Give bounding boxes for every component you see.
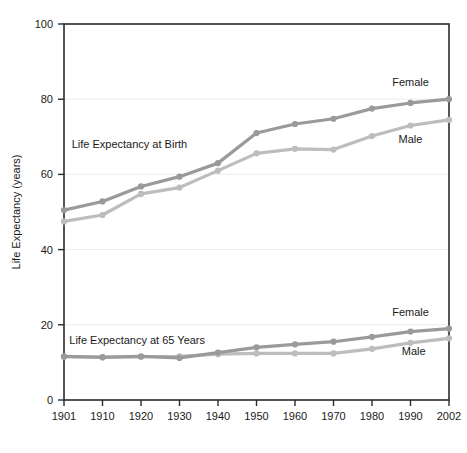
data-point xyxy=(176,355,182,361)
x-tick-label: 1950 xyxy=(244,410,268,422)
x-tick-label: 1920 xyxy=(129,410,153,422)
series-inline-label: Female xyxy=(392,306,429,318)
y-tick-label: 20 xyxy=(41,319,53,331)
y-axis-title: Life Expectancy (years) xyxy=(10,155,22,270)
x-tick-label: 1930 xyxy=(167,410,191,422)
data-point xyxy=(61,207,67,213)
x-tick-label: 1910 xyxy=(90,410,114,422)
data-point xyxy=(215,350,221,356)
x-tick-label: 1970 xyxy=(321,410,345,422)
data-point xyxy=(138,183,144,189)
data-point xyxy=(407,328,413,334)
y-tick-label: 0 xyxy=(47,394,53,406)
data-point xyxy=(407,100,413,106)
data-point xyxy=(292,350,298,356)
data-point xyxy=(292,341,298,347)
series-inline-label: Female xyxy=(392,76,429,88)
data-point xyxy=(330,339,336,345)
series-inline-label: Male xyxy=(399,133,423,145)
data-point xyxy=(292,146,298,152)
data-point xyxy=(446,96,452,102)
data-point xyxy=(176,174,182,180)
data-point xyxy=(61,353,67,359)
data-point xyxy=(446,117,452,123)
data-point xyxy=(330,116,336,122)
x-tick-label: 2002 xyxy=(437,410,461,422)
data-point xyxy=(446,335,452,341)
y-tick-label: 60 xyxy=(41,168,53,180)
data-point xyxy=(61,218,67,224)
data-point xyxy=(176,184,182,190)
data-point xyxy=(253,344,259,350)
chart-background xyxy=(0,0,467,453)
group-annotation-label: Life Expectancy at 65 Years xyxy=(69,334,205,346)
x-tick-label: 1960 xyxy=(283,410,307,422)
data-point xyxy=(253,350,259,356)
data-point xyxy=(138,191,144,197)
line-chart: 020406080100 190119101920193019401950196… xyxy=(0,0,467,453)
data-point xyxy=(369,334,375,340)
data-point xyxy=(99,212,105,218)
data-point xyxy=(253,130,259,136)
x-tick-label: 1940 xyxy=(206,410,230,422)
series-inline-label: Male xyxy=(402,345,426,357)
data-point xyxy=(215,168,221,174)
data-point xyxy=(369,106,375,112)
group-annotation-label: Life Expectancy at Birth xyxy=(72,138,188,150)
data-point xyxy=(99,198,105,204)
data-point xyxy=(407,122,413,128)
x-tick-label: 1980 xyxy=(360,410,384,422)
y-tick-label: 100 xyxy=(35,18,53,30)
data-point xyxy=(446,325,452,331)
chart-canvas: 020406080100 190119101920193019401950196… xyxy=(0,0,467,453)
data-point xyxy=(292,121,298,127)
data-point xyxy=(99,354,105,360)
data-point xyxy=(253,150,259,156)
data-point xyxy=(369,133,375,139)
x-tick-label: 1901 xyxy=(52,410,76,422)
data-point xyxy=(330,350,336,356)
data-point xyxy=(369,346,375,352)
y-tick-label: 40 xyxy=(41,244,53,256)
x-tick-label: 1990 xyxy=(398,410,422,422)
data-point xyxy=(215,160,221,166)
data-point xyxy=(138,353,144,359)
data-point xyxy=(330,146,336,152)
x-axis-labels: 1901191019201930194019501960197019801990… xyxy=(52,410,461,422)
y-tick-label: 80 xyxy=(41,93,53,105)
